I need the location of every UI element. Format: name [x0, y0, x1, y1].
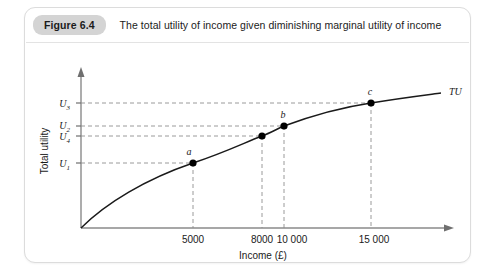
- x-tick-label-5000: 5000: [182, 234, 205, 245]
- data-point-u4: [258, 132, 265, 139]
- x-axis-arrow: [444, 225, 454, 232]
- chart-plot-area: U3 U2 U4 U1 a b c TU 5000 8000 10 000 15…: [26, 43, 471, 263]
- x-tick-label-15000: 15 000: [359, 234, 390, 245]
- y-axis-arrow: [78, 67, 85, 77]
- figure-title: The total utility of income given dimini…: [120, 19, 442, 31]
- figure-header: Figure 6.4 The total utility of income g…: [25, 8, 470, 42]
- figure-number-badge: Figure 6.4: [33, 15, 106, 35]
- point-label-c: c: [368, 86, 373, 97]
- y-label-u3: U3: [59, 98, 70, 112]
- chart-svg: U3 U2 U4 U1 a b c TU 5000 8000 10 000 15…: [26, 43, 471, 263]
- data-point-a: [189, 159, 196, 166]
- x-tick-label-8000: 8000: [251, 234, 274, 245]
- y-label-u1: U1: [59, 158, 70, 172]
- curve-label-tu: TU: [449, 86, 463, 97]
- figure-card: Figure 6.4 The total utility of income g…: [24, 7, 471, 263]
- data-point-b: [280, 122, 287, 129]
- point-label-b: b: [281, 109, 286, 120]
- tu-curve: [81, 93, 441, 228]
- x-axis-title: Income (£): [239, 250, 287, 261]
- x-tick-label-10000: 10 000: [277, 234, 308, 245]
- point-label-a: a: [187, 146, 192, 157]
- y-axis-title: Total utility: [39, 128, 50, 175]
- data-point-c: [367, 99, 374, 106]
